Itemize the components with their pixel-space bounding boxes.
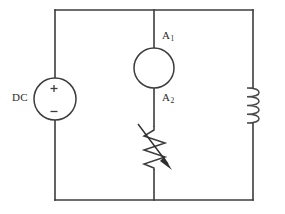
ammeter-a2-label: A2 <box>162 92 174 103</box>
inductor-coil <box>247 88 259 123</box>
rheostat-arrow-head <box>160 157 172 170</box>
ammeter-symbol <box>134 48 174 88</box>
dc-source-label: DC <box>12 92 28 103</box>
variable-resistor-symbol <box>138 124 172 170</box>
dc-source-circle <box>34 78 76 120</box>
ammeter-a1-label: A1 <box>162 30 174 41</box>
ammeter-circle <box>134 48 174 88</box>
dc-source-symbol <box>34 78 76 120</box>
circuit-schematic-canvas <box>0 0 285 214</box>
resistor-zigzag <box>144 126 165 170</box>
circuit-diagram: DC A1 A2 <box>0 0 285 214</box>
ammeter-a1-letter: A <box>162 29 170 41</box>
ammeter-a1-subscript: 1 <box>170 34 174 43</box>
wiring-group <box>55 10 253 200</box>
inductor-symbol <box>247 88 259 123</box>
ammeter-a2-subscript: 2 <box>170 96 174 105</box>
ammeter-a2-letter: A <box>162 91 170 103</box>
